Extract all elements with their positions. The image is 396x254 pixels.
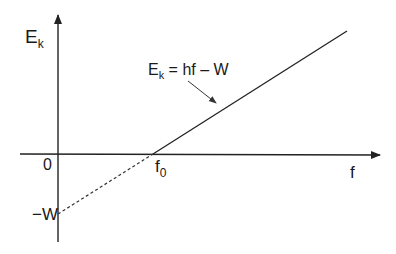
equation-label: Ek = hf – W — [148, 61, 230, 81]
origin-label: 0 — [43, 156, 52, 173]
y-axis-label: Ek — [25, 26, 45, 51]
extrapolation-line — [58, 154, 153, 214]
x-axis-label: f — [350, 163, 355, 182]
threshold-label: f0 — [155, 157, 167, 180]
ek-line — [153, 31, 347, 154]
x-axis — [20, 154, 380, 155]
pointer-arrow — [188, 81, 216, 103]
photoelectric-graph: Ek Ek = hf – W 0 f0 f −W — [0, 0, 396, 254]
intercept-label: −W — [32, 205, 58, 224]
